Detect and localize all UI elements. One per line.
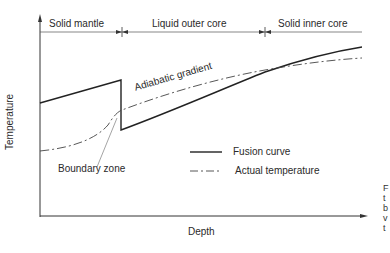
region-label-solid-mantle: Solid mantle	[49, 18, 104, 29]
caption-fragment: b	[383, 203, 388, 213]
diagram-canvas	[0, 0, 390, 253]
y-axis-arrow-icon	[38, 14, 42, 22]
x-axis-arrow-icon	[360, 214, 368, 218]
boundary-zone-leader	[97, 118, 117, 167]
boundary-zone-label: Boundary zone	[58, 163, 125, 174]
fusion-curve	[40, 47, 362, 130]
legend-label-actual: Actual temperature	[235, 165, 320, 176]
caption-fragment: t	[383, 223, 386, 233]
x-axis-label: Depth	[188, 226, 215, 237]
caption-fragment: F	[383, 183, 389, 193]
region-label-solid-inner-core: Solid inner core	[278, 18, 347, 29]
legend-label-fusion: Fusion curve	[233, 146, 290, 157]
boundary-marker-mantle-core	[116, 27, 128, 37]
caption-fragment: v	[383, 213, 388, 223]
region-label-liquid-outer-core: Liquid outer core	[152, 18, 227, 29]
boundary-marker-outer-inner-core	[259, 27, 271, 37]
y-axis-label: Temperature	[4, 94, 15, 150]
caption-fragment: t	[383, 193, 386, 203]
